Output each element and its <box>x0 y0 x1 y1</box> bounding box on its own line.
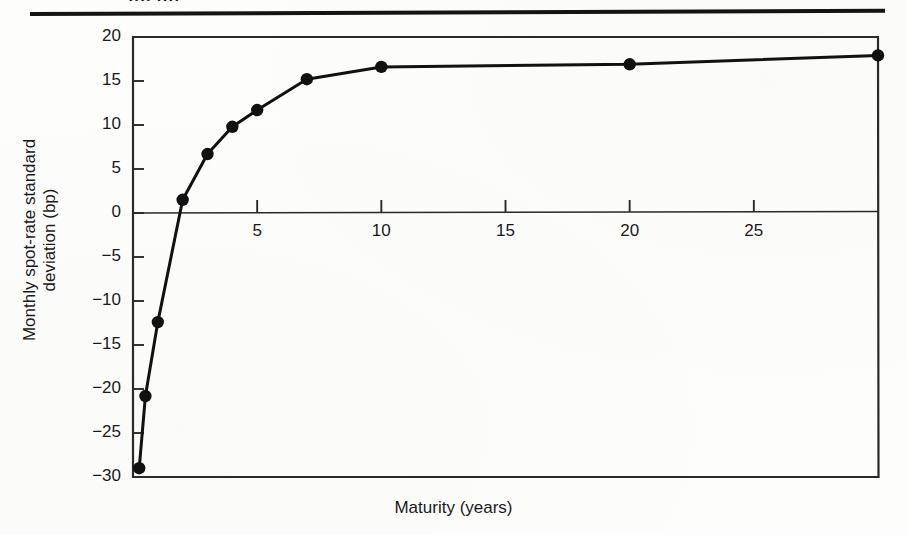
x-tick-label: 5 <box>234 221 280 241</box>
y-tick-label: −25 <box>75 422 121 442</box>
y-tick-label: 5 <box>75 158 121 178</box>
y-axis-title-line-1: Monthly spot-rate standard <box>20 25 40 455</box>
x-tick-label: 10 <box>358 221 404 241</box>
data-point-marker <box>623 58 635 70</box>
data-point-marker <box>133 462 145 474</box>
data-point-marker <box>375 61 387 73</box>
y-tick-label: 0 <box>75 202 121 222</box>
data-point-marker <box>301 73 313 85</box>
data-series-line <box>139 55 878 468</box>
data-point-markers <box>133 49 884 474</box>
data-point-marker <box>872 49 884 61</box>
y-tick-label: 20 <box>75 26 121 46</box>
figure-panel: ffff ffff Monthly spot-rate standard dev… <box>0 0 907 535</box>
plot-frame <box>133 37 879 477</box>
data-point-marker <box>139 390 151 402</box>
data-point-marker <box>201 148 213 160</box>
y-axis-title-line-2: deviation (bp) <box>40 25 60 455</box>
data-point-marker <box>176 194 188 206</box>
y-tick-label: 15 <box>75 70 121 90</box>
line-chart <box>0 0 907 535</box>
x-tick-label: 25 <box>731 221 777 241</box>
x-axis-title: Maturity (years) <box>0 498 907 518</box>
y-tick-label: −15 <box>75 334 121 354</box>
y-tick-label: −10 <box>75 290 121 310</box>
x-tick-label: 20 <box>607 221 653 241</box>
data-point-marker <box>251 104 263 116</box>
y-tick-label: −5 <box>75 246 121 266</box>
data-point-marker <box>226 121 238 133</box>
y-tick-label: −30 <box>75 466 121 486</box>
y-tick-label: −20 <box>75 378 121 398</box>
data-point-marker <box>152 316 164 328</box>
x-tick-label: 15 <box>483 221 529 241</box>
x-axis-title-text: Maturity (years) <box>394 498 512 517</box>
y-tick-label: 10 <box>75 114 121 134</box>
y-axis-title: Monthly spot-rate standard deviation (bp… <box>0 0 80 480</box>
